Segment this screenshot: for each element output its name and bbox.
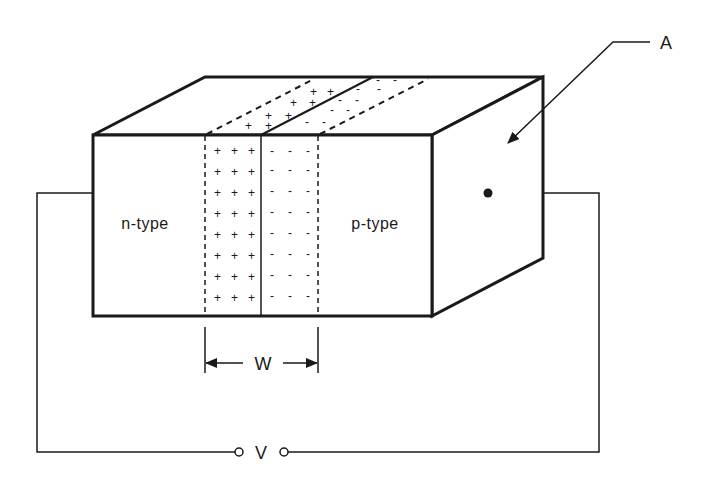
svg-text:+: + (231, 228, 238, 242)
svg-text:+: + (265, 109, 272, 123)
svg-text:-: - (288, 144, 292, 158)
svg-text:-: - (270, 144, 274, 158)
svg-text:-: - (306, 247, 310, 261)
svg-text:-: - (393, 73, 397, 87)
svg-text:-: - (270, 226, 274, 240)
svg-text:-: - (288, 205, 292, 219)
svg-text:+: + (231, 291, 238, 305)
svg-text:+: + (231, 186, 238, 200)
svg-text:+: + (214, 144, 221, 158)
svg-text:-: - (288, 247, 292, 261)
svg-text:-: - (322, 115, 326, 129)
svg-text:+: + (248, 144, 255, 158)
pn-junction-diagram: V +++ +++ +++ +++ +++ +++ +++ +++ --- --… (0, 0, 701, 487)
svg-text:+: + (214, 165, 221, 179)
svg-text:+: + (231, 249, 238, 263)
svg-text:-: - (288, 184, 292, 198)
svg-text:+: + (231, 270, 238, 284)
svg-text:-: - (356, 82, 360, 96)
svg-text:-: - (270, 289, 274, 303)
svg-text:-: - (330, 103, 334, 117)
svg-text:+: + (327, 85, 334, 99)
svg-text:+: + (231, 207, 238, 221)
svg-text:-: - (338, 93, 342, 107)
svg-text:+: + (214, 186, 221, 200)
svg-text:-: - (270, 184, 274, 198)
svg-text:-: - (288, 226, 292, 240)
svg-text:+: + (231, 165, 238, 179)
svg-text:+: + (290, 96, 297, 110)
svg-text:+: + (310, 85, 317, 99)
svg-text:+: + (285, 109, 292, 123)
svg-text:+: + (214, 249, 221, 263)
svg-text:-: - (288, 163, 292, 177)
svg-text:-: - (306, 205, 310, 219)
svg-text:+: + (248, 249, 255, 263)
svg-text:+: + (248, 207, 255, 221)
svg-text:+: + (248, 291, 255, 305)
voltage-label: V (255, 443, 267, 463)
svg-text:-: - (376, 73, 380, 87)
svg-text:+: + (214, 291, 221, 305)
svg-text:-: - (306, 268, 310, 282)
svg-text:+: + (248, 186, 255, 200)
svg-text:-: - (288, 289, 292, 303)
svg-text:-: - (346, 103, 350, 117)
contact-dot (484, 189, 493, 198)
svg-text:+: + (214, 228, 221, 242)
svg-text:-: - (270, 247, 274, 261)
terminal-right (280, 448, 288, 456)
svg-text:-: - (306, 289, 310, 303)
svg-text:-: - (270, 163, 274, 177)
svg-text:+: + (214, 207, 221, 221)
svg-text:-: - (306, 184, 310, 198)
svg-text:-: - (288, 268, 292, 282)
svg-text:+: + (248, 228, 255, 242)
svg-text:+: + (231, 144, 238, 158)
svg-text:+: + (248, 270, 255, 284)
svg-text:+: + (214, 270, 221, 284)
svg-text:-: - (270, 205, 274, 219)
svg-text:-: - (306, 163, 310, 177)
width-label: W (255, 354, 272, 374)
svg-text:-: - (306, 144, 310, 158)
area-label: A (660, 33, 672, 53)
svg-text:-: - (270, 268, 274, 282)
terminal-left (235, 448, 243, 456)
p-type-label: p-type (351, 215, 398, 232)
svg-text:+: + (248, 165, 255, 179)
svg-text:+: + (245, 119, 252, 133)
svg-text:-: - (306, 226, 310, 240)
n-type-label: n-type (121, 215, 168, 232)
svg-text:-: - (305, 115, 309, 129)
